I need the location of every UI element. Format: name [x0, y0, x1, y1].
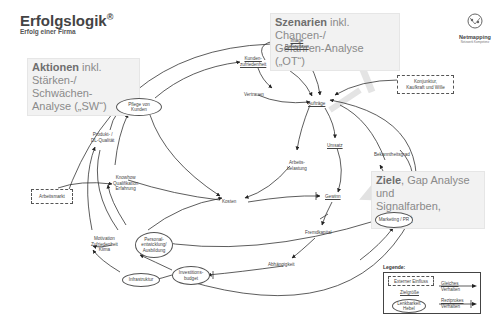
node-motivation: MotivationZufriedenheitKlima	[91, 236, 118, 253]
node-produkt-qualitaet: Produkt- /DL-Qualität	[91, 132, 114, 143]
node-pflege-kunden[interactable]: Pflege vonKunden	[116, 98, 162, 116]
node-abhaengigkeit: Abhängigkeit	[268, 262, 295, 268]
legend-external: Externer Einfluss	[388, 276, 434, 286]
netmapping-logo-icon	[455, 12, 495, 30]
node-fremdkapital: Fremdkapital	[305, 230, 332, 236]
node-bekanntheitsgrad: Bekanntheitsgrad	[374, 152, 410, 158]
legend-reciprocal-arrow-icon	[439, 300, 479, 308]
legend-title: Legende:	[383, 264, 405, 270]
node-gewinn: Gewinn	[325, 194, 341, 200]
page-subtitle: Erfolg einer Firma	[20, 28, 76, 35]
netmapping-logo: Netmapping Netzwerk Kompetenz	[455, 12, 495, 44]
node-personalentwicklung[interactable]: Personal-entwicklung/Ausbildung	[135, 232, 173, 258]
node-infrastruktur[interactable]: Infrastruktur	[122, 273, 160, 287]
legend-goal: Zielgröße	[400, 290, 419, 295]
node-knowhow: KnowhowQualifikationErfahrung	[113, 175, 138, 192]
node-image-referenzen: ImageReferenzen	[285, 38, 309, 49]
node-marketing-pr[interactable]: Marketing / PR	[375, 212, 413, 228]
node-vertrauen: Vertrauen	[244, 92, 264, 98]
big-arrow-scenarios	[330, 90, 360, 110]
node-umsatz: Umsatz	[327, 143, 343, 149]
node-konjunktur: Konjunktur,Kaufkraft und Wille	[397, 75, 454, 94]
node-kundenzufriedenheit: Kunden-zufriedenheit	[240, 56, 266, 67]
node-investitionsbudget[interactable]: Investitions-budget	[172, 266, 210, 285]
legend-lever: LenkbarkeitHebel	[392, 299, 426, 313]
legend-box: Externer Einfluss Zielgröße LenkbarkeitH…	[383, 272, 481, 314]
page-title: Erfolgslogik®	[20, 12, 113, 29]
node-arbeitsmarkt: Arbeitsmarkt	[31, 189, 73, 204]
legend-same-arrow-icon	[439, 284, 479, 288]
node-auftraege: Aufträge	[308, 101, 325, 107]
node-kosten: Kosten	[222, 199, 236, 205]
node-arbeitsbelastung: Arbeits-belastung	[287, 160, 307, 171]
